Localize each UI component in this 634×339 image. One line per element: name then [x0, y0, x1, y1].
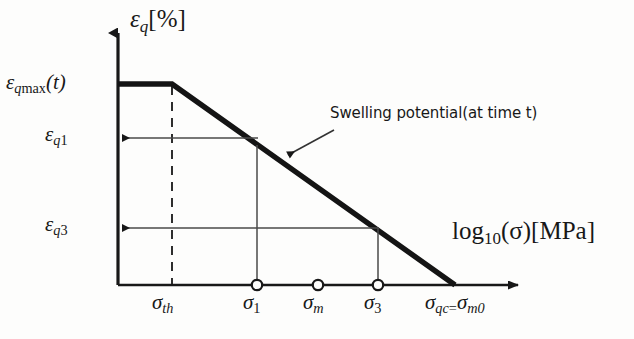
x-tick-label-sigma-th: σth [152, 292, 173, 315]
y-axis-title: εq[%] [130, 6, 186, 35]
eq3-sub-index: 3 [60, 222, 67, 238]
figure-canvas: εq[%] εqmax(t) εq1 εq3 log10(σ)[MPa] σth… [0, 0, 634, 339]
x-axis-title-argument: (σ)[MPa] [501, 217, 595, 244]
sigma-equality-sign: = [449, 300, 457, 316]
sigma-3-subscript: 3 [374, 300, 381, 316]
y-axis-title-symbol: ε [130, 5, 140, 32]
y-axis-title-unit: [%] [148, 5, 185, 32]
sigma-qc-subscript: qc [435, 300, 448, 316]
x-axis-title-log: log [452, 217, 484, 244]
sigma-th-symbol: σ [152, 290, 162, 314]
y-tick-label-eq-1: εq1 [45, 124, 68, 147]
eq1-sub-index: 1 [60, 132, 67, 148]
y-tick-label-eq-max: εqmax(t) [6, 72, 66, 95]
x-tick-label-sigma-3: σ3 [364, 292, 382, 315]
x-tick-label-sigma-m: σm [303, 292, 324, 315]
sigma-3-symbol: σ [364, 290, 374, 314]
sigma-m-symbol: σ [303, 290, 313, 314]
annotation-leader-line [288, 130, 334, 155]
y-tick-label-eq-3: εq3 [45, 214, 68, 237]
sigma-3-marker [373, 280, 383, 290]
sigma-1-marker [252, 280, 262, 290]
sigma-m-subscript: m [313, 300, 323, 316]
x-tick-label-sigma-1: σ1 [243, 292, 261, 315]
sigma-1-subscript: 1 [253, 300, 260, 316]
curve-annotation-label: Swelling potential(at time t) [330, 106, 537, 121]
x-axis-title: log10(σ)[MPa] [452, 218, 595, 247]
sigma-th-subscript: th [162, 300, 173, 316]
sigma-1-symbol: σ [243, 290, 253, 314]
x-axis-title-base: 10 [484, 229, 501, 248]
swelling-potential-plot [0, 0, 634, 339]
sigma-m0-subscript: m0 [467, 300, 484, 316]
sigma-m0-symbol: σ [457, 290, 467, 314]
eq-max-time-arg: (t) [46, 70, 66, 94]
eq-max-sub-max: max [21, 80, 46, 96]
sigma-m-marker [313, 280, 323, 290]
x-tick-label-sigma-qc: σqc=σm0 [425, 292, 485, 315]
sigma-qc-symbol: σ [425, 290, 435, 314]
